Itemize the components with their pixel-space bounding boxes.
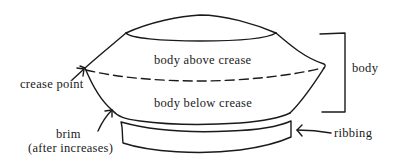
crown-bottom-outline <box>126 33 276 41</box>
upper-body-left-edge <box>85 33 126 68</box>
label-body-below-crease: body below crease <box>154 97 252 110</box>
label-body-above-crease: body above crease <box>154 54 251 67</box>
label-ribbing: ribbing <box>334 127 372 140</box>
crown-top-outline <box>126 15 276 33</box>
ribbing-arrow <box>297 130 331 133</box>
ribbing-band <box>121 121 291 152</box>
label-brim: brim <box>56 128 81 141</box>
brim-arrow <box>98 110 112 131</box>
body-bracket <box>320 33 345 112</box>
label-crease-point: crease point <box>20 78 84 91</box>
crease-line <box>86 68 322 81</box>
lower-body-right-edge <box>290 68 324 113</box>
label-body: body <box>352 62 378 75</box>
label-brim-note: (after increases) <box>28 142 113 155</box>
crease-point-left-tick <box>80 66 85 68</box>
upper-body-right-edge <box>276 33 325 68</box>
